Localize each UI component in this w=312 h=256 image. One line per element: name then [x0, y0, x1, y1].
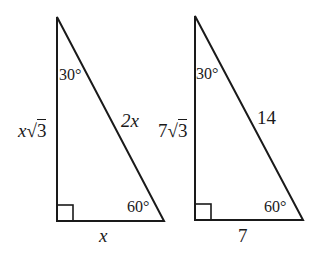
- radicand: 3: [178, 119, 188, 141]
- triangles-figure: [0, 0, 312, 256]
- vertical-side-coef: x: [18, 120, 26, 141]
- diagram-stage: 30° 60° 2x x x√3 30° 60° 14 7 7√3: [0, 0, 312, 256]
- triangle-general: [57, 17, 164, 221]
- vertical-side-label-example: 7√3: [158, 121, 187, 140]
- triangle-example: [195, 16, 303, 220]
- square-root: √3: [26, 121, 46, 140]
- hypotenuse-label-example: 14: [257, 108, 276, 127]
- square-root: √3: [168, 121, 188, 140]
- angle-60-label-general: 60°: [127, 199, 149, 215]
- base-label-general: x: [99, 226, 107, 245]
- right-angle-marker-general: [57, 205, 73, 221]
- vertical-side-label-general: x√3: [18, 121, 46, 140]
- hypotenuse-label-general: 2x: [121, 111, 139, 130]
- radical-sign: √: [26, 120, 36, 141]
- right-angle-marker-example: [195, 204, 211, 220]
- angle-30-label-example: 30°: [196, 66, 218, 82]
- vertical-side-coef: 7: [158, 120, 168, 141]
- angle-30-label-general: 30°: [59, 67, 81, 83]
- angle-60-label-example: 60°: [264, 199, 286, 215]
- radical-sign: √: [168, 120, 178, 141]
- base-label-example: 7: [238, 226, 248, 245]
- radicand: 3: [37, 119, 47, 141]
